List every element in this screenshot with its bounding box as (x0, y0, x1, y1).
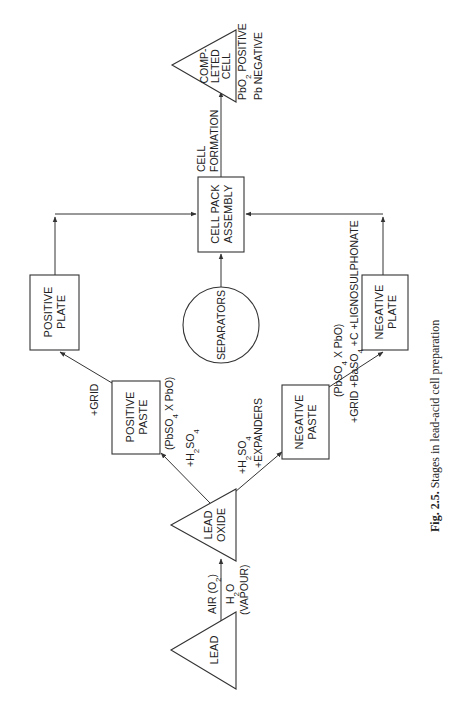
arrow-positive-paste-to-plate (60, 352, 112, 383)
label-pbo2-positive: PbO2 POSITIVE (236, 23, 253, 100)
lead-acid-cell-preparation-diagram: LEAD LEAD OXIDE POSITIVE PASTE NEGATIVE … (0, 0, 462, 708)
negative-paste-label-2: PASTE (306, 404, 318, 439)
negative-paste-label-1: NEGATIVE (293, 395, 305, 450)
lead-label: LEAD (208, 636, 220, 665)
positive-paste-box (112, 381, 160, 454)
positive-plate-label-1: POSITIVE (42, 287, 54, 338)
cell-pack-label-1: CELL PACK (209, 184, 221, 244)
cell-pack-assembly-box (198, 177, 244, 252)
label-grid-positive: +GRID (88, 383, 100, 416)
label-positive-paste-formula: (PbSO4 X PbO) (163, 377, 180, 450)
positive-paste-label-1: POSITIVE (124, 392, 136, 443)
label-pb-negative: Pb NEGATIVE (252, 32, 264, 100)
negative-plate-box (362, 275, 408, 350)
label-h2so4-negative: +H2SO4 (236, 436, 253, 474)
lead-triangle (171, 612, 236, 689)
negative-plate-label-1: NEGATIVE (373, 285, 385, 340)
completed-cell-label-3: CELL (220, 53, 232, 79)
label-h2so4-positive: +H2SO4 (184, 429, 201, 467)
cell-pack-label-2: ASSEMBLY (222, 184, 234, 243)
label-cell-formation-2: FORMATION (208, 110, 220, 172)
figure-caption: Fig. 2.5. Stages in lead-acid cell prepa… (428, 320, 442, 532)
lead-oxide-label-1: LEAD (202, 511, 214, 540)
label-cell-formation-1: CELL (195, 146, 207, 172)
negative-plate-label-2: PLATE (386, 295, 398, 329)
lead-oxide-label-2: OXIDE (215, 508, 227, 542)
label-vapour: (VAPOUR) (238, 564, 250, 615)
positive-plate-label-2: PLATE (55, 295, 67, 329)
positive-paste-label-2: PASTE (137, 399, 149, 434)
label-air-o2: AIR (O2) (206, 574, 223, 614)
separators-label: SEPARATORS (215, 290, 227, 360)
label-negative-paste-formula: (PbSO4 X PbO) (332, 324, 349, 397)
label-expanders: +EXPANDERS (252, 398, 264, 468)
